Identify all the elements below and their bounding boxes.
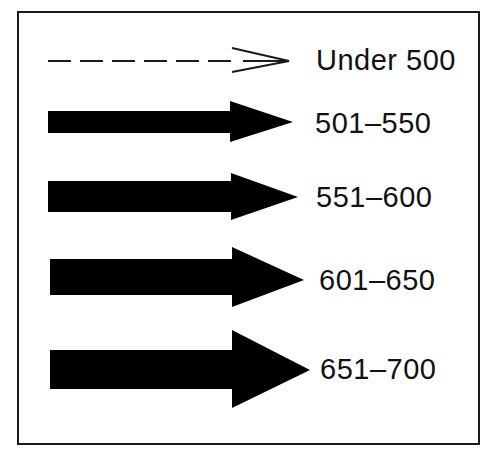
legend-label-501-550: 501–550 <box>315 109 431 138</box>
legend-label-551-600: 551–600 <box>316 183 432 212</box>
solid-arrow-icon <box>50 247 304 307</box>
legend-label-under-500: Under 500 <box>316 46 456 75</box>
legend-label-651-700: 651–700 <box>320 355 436 384</box>
solid-arrow-icon <box>48 173 298 220</box>
solid-arrow-icon <box>50 330 310 408</box>
legend-label-601-650: 601–650 <box>319 266 435 295</box>
dashed-arrow-icon <box>48 48 289 72</box>
solid-arrow-icon <box>48 101 293 142</box>
